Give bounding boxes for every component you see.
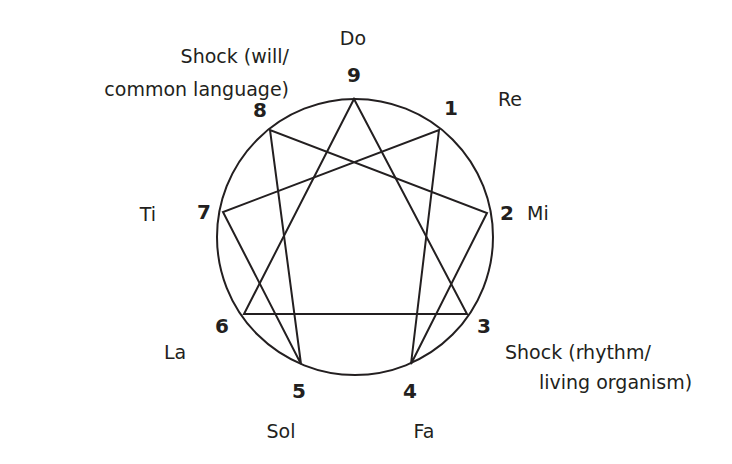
point-8-number: 8 (253, 98, 267, 122)
point-7-number: 7 (197, 200, 211, 224)
hexad-figure (223, 130, 487, 364)
note-mi-label: Mi (527, 202, 549, 224)
shock-rhythm-label-line2: living organism) (539, 371, 692, 393)
point-5-number: 5 (292, 379, 306, 403)
note-sol-label: Sol (267, 420, 296, 442)
note-ti-label: Ti (139, 203, 156, 225)
point-2-number: 2 (500, 201, 514, 225)
shock-rhythm-label-line1: Shock (rhythm/ (505, 341, 651, 363)
point-9-number: 9 (347, 63, 361, 87)
enneagram-diagram: 9 1 2 3 4 5 6 7 8 Do Re Mi Fa Sol La Ti … (0, 0, 732, 464)
note-la-label: La (164, 341, 186, 363)
enneagram-circle (217, 99, 493, 375)
shock-will-label-line1: Shock (will/ (181, 45, 290, 67)
point-6-number: 6 (215, 314, 229, 338)
note-do-label: Do (340, 27, 366, 49)
point-4-number: 4 (403, 379, 417, 403)
point-1-number: 1 (444, 96, 458, 120)
shock-will-label-line2: common language) (104, 78, 289, 100)
note-re-label: Re (498, 88, 522, 110)
note-fa-label: Fa (414, 420, 435, 442)
point-3-number: 3 (477, 314, 491, 338)
